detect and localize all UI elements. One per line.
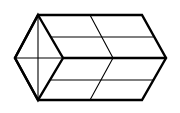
background [0, 0, 180, 113]
prism-diagram [0, 0, 180, 113]
